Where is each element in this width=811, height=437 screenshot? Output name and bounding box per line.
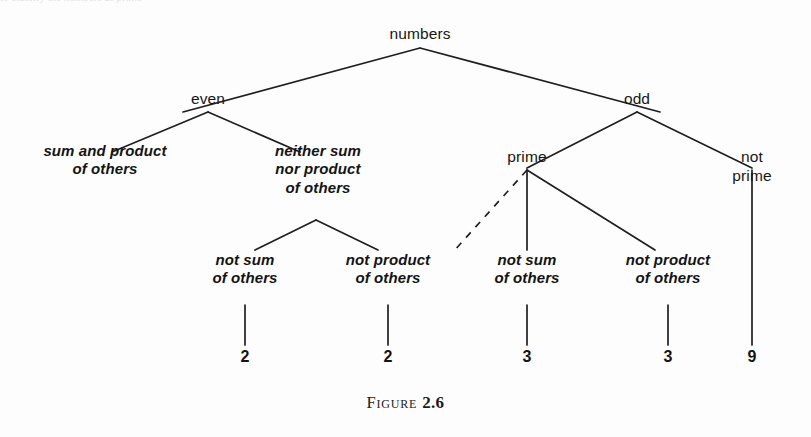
tree-edges-layer xyxy=(0,0,811,437)
tree-node-sum-and-product: sum and product of others xyxy=(43,142,166,179)
tree-node-not-sum-left: not sum of others xyxy=(212,251,277,288)
tree-leaf-3-a: 3 xyxy=(523,347,532,367)
tree-leaf-2-b: 2 xyxy=(384,347,393,367)
tree-node-even: even xyxy=(191,90,225,109)
tree-leaf-2-a: 2 xyxy=(241,347,250,367)
figure-caption: Figure2.6 xyxy=(0,393,811,413)
tree-leaf-9: 9 xyxy=(748,347,757,367)
edge-neither-notsum xyxy=(255,220,316,250)
tree-leaf-3-b: 3 xyxy=(664,347,673,367)
edge-neither-notproduct xyxy=(316,220,378,250)
tree-node-not-product-right: not product of others xyxy=(626,251,710,288)
figure-container: to classify the numbers as prime xyxy=(0,0,811,437)
tree-node-neither-sum-nor-product: neither sum nor product of others xyxy=(275,142,361,197)
figure-caption-number: 2.6 xyxy=(422,393,444,412)
tree-node-numbers: numbers xyxy=(389,25,450,44)
edge-prime-notproduct xyxy=(527,170,655,250)
tree-node-not-prime: not prime xyxy=(723,148,782,186)
scan-artifact-label: to classify the numbers as prime xyxy=(0,0,142,3)
edge-prime-dashed-branch xyxy=(453,170,527,252)
tree-node-not-product-left: not product of others xyxy=(346,251,430,288)
tree-node-prime: prime xyxy=(507,148,546,167)
figure-caption-word: Figure xyxy=(367,393,418,412)
tree-node-not-sum-right: not sum of others xyxy=(494,251,559,288)
scan-artifact-text: to classify the numbers as prime xyxy=(0,0,811,14)
tree-node-odd: odd xyxy=(624,90,650,109)
